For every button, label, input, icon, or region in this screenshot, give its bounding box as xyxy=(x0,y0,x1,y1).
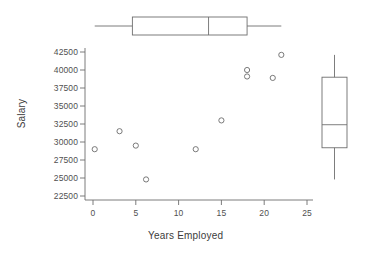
scatter-point xyxy=(244,67,249,72)
boxplot-y-box xyxy=(322,77,347,148)
x-tick-label: 25 xyxy=(292,208,322,218)
y-tick-label: 40000 xyxy=(32,65,78,75)
scatterplot-with-marginal-boxplots: Salary Years Employed 225002500027500300… xyxy=(0,0,369,254)
x-tick-label: 10 xyxy=(164,208,194,218)
scatter-point xyxy=(133,143,138,148)
y-tick-label: 32500 xyxy=(32,119,78,129)
y-tick-label: 42500 xyxy=(32,47,78,57)
scatter-point xyxy=(270,75,275,80)
y-axis-label: Salary xyxy=(16,84,27,144)
scatter-point xyxy=(92,147,97,152)
y-tick-label: 22500 xyxy=(32,191,78,201)
y-tick-label: 27500 xyxy=(32,155,78,165)
y-tick-label: 25000 xyxy=(32,173,78,183)
scatter-point xyxy=(244,74,249,79)
scatter-point xyxy=(117,129,122,134)
scatter-point xyxy=(219,118,224,123)
x-tick-label: 20 xyxy=(249,208,279,218)
scatter-point xyxy=(279,52,284,57)
boxplot-x-box xyxy=(132,17,247,35)
y-tick-label: 30000 xyxy=(32,137,78,147)
x-axis-label: Years Employed xyxy=(148,230,223,241)
scatter-point xyxy=(143,177,148,182)
x-tick-label: 5 xyxy=(121,208,151,218)
x-tick-label: 15 xyxy=(206,208,236,218)
scatter-point xyxy=(193,147,198,152)
x-tick-label: 0 xyxy=(78,208,108,218)
y-tick-label: 35000 xyxy=(32,101,78,111)
y-tick-label: 37500 xyxy=(32,83,78,93)
